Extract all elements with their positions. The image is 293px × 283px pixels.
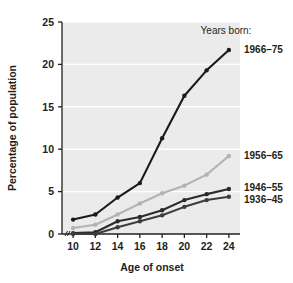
data-point [71, 226, 75, 230]
data-point [71, 232, 75, 236]
x-tick-label: 14 [112, 240, 124, 252]
data-point [227, 48, 231, 52]
plot-area-background [62, 22, 240, 234]
x-tick-label: 18 [156, 240, 168, 252]
data-point [93, 222, 97, 226]
data-point [160, 136, 164, 140]
data-point [138, 219, 142, 223]
x-tick-label: 16 [134, 240, 146, 252]
data-point [182, 198, 186, 202]
series-label-1966-75: 1966–75 [244, 44, 283, 55]
y-tick-label: 10 [42, 143, 54, 155]
series-label-1936-45: 1936–45 [244, 194, 283, 205]
x-axis-title: Age of onset [120, 261, 184, 273]
y-tick-label: 0 [48, 228, 54, 240]
line-chart: 0510152025 1012141618202224 Percentage o… [0, 0, 293, 283]
data-point [93, 232, 97, 236]
data-point [138, 181, 142, 185]
data-point [204, 172, 208, 176]
data-point [182, 94, 186, 98]
data-point [160, 208, 164, 212]
data-point [93, 212, 97, 216]
y-tick-label: 5 [48, 185, 54, 197]
chart-figure: 0510152025 1012141618202224 Percentage o… [0, 0, 293, 283]
x-tick-label: 10 [67, 240, 79, 252]
x-tick-label: 20 [179, 240, 191, 252]
data-point [227, 187, 231, 191]
series-label-1946-55: 1946–55 [244, 182, 283, 193]
data-point [138, 215, 142, 219]
y-tick-label: 25 [42, 16, 54, 28]
data-point [115, 195, 119, 199]
legend-title: Years born: [201, 25, 252, 36]
x-tick-label: 12 [90, 240, 102, 252]
data-point [227, 194, 231, 198]
y-axis-title: Percentage of population [6, 65, 18, 191]
series-label-1956-65: 1956–65 [244, 150, 283, 161]
data-point [204, 198, 208, 202]
data-point [160, 213, 164, 217]
data-point [182, 205, 186, 209]
data-point [182, 183, 186, 187]
data-point [204, 68, 208, 72]
data-point [115, 219, 119, 223]
data-point [115, 212, 119, 216]
data-point [204, 192, 208, 196]
data-point [160, 191, 164, 195]
data-point [71, 217, 75, 221]
y-tick-label: 15 [42, 101, 54, 113]
data-point [138, 201, 142, 205]
y-tick-label: 20 [42, 58, 54, 70]
data-point [227, 154, 231, 158]
x-tick-label: 24 [223, 240, 235, 252]
data-point [115, 225, 119, 229]
x-tick-label: 22 [201, 240, 213, 252]
